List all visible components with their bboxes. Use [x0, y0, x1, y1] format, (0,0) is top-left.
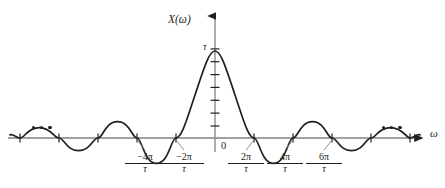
fraction-numerator: −2π [164, 152, 204, 164]
ellipsis-dot [48, 126, 51, 129]
ellipsis-left [32, 126, 52, 129]
fraction-denominator: τ [125, 164, 165, 175]
ellipsis-dot [390, 126, 393, 129]
fraction-numerator: −4π [125, 152, 165, 164]
fraction-numerator: 6π [306, 152, 342, 164]
fraction-denominator: τ [164, 164, 204, 175]
fraction-denominator: τ [306, 164, 342, 175]
ellipsis-dot [40, 126, 43, 129]
leader-lines [0, 0, 445, 188]
tick-label-minus-2pi-over-tau: −2π τ [164, 152, 204, 175]
ellipsis-right [382, 126, 402, 129]
tick-label-4pi-over-tau: 4π τ [267, 152, 303, 175]
ellipsis-dot [382, 126, 385, 129]
tick-label-minus-4pi-over-tau: −4π τ [125, 152, 165, 175]
fraction-numerator: 4π [267, 152, 303, 164]
ellipsis-dot [32, 126, 35, 129]
ellipsis-dot [398, 126, 401, 129]
tick-label-2pi-over-tau: 2π τ [228, 152, 264, 175]
sinc-spectrum-figure: X(ω) ω τ 0 −4π τ −2π τ 2π τ 4π τ 6π τ [0, 0, 445, 188]
fraction-numerator: 2π [228, 152, 264, 164]
tick-label-6pi-over-tau: 6π τ [306, 152, 342, 175]
fraction-denominator: τ [267, 164, 303, 175]
fraction-denominator: τ [228, 164, 264, 175]
